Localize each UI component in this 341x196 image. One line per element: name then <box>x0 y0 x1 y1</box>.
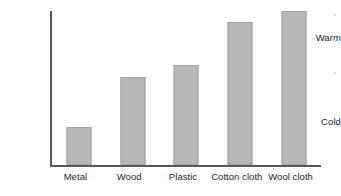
scan-speckle <box>334 14 336 16</box>
bar-wood <box>120 77 145 165</box>
x-axis-category-labels: MetalWoodPlasticCotton clothWool cloth <box>52 170 321 186</box>
bar-cotton-cloth <box>228 22 253 165</box>
bar-plastic <box>174 65 199 165</box>
bar-wool-cloth <box>282 11 307 165</box>
scan-speckle <box>334 40 336 42</box>
category-label-cotton-cloth: Cotton cloth <box>206 170 268 183</box>
plot-area <box>52 8 321 165</box>
category-label-metal: Metal <box>44 170 106 183</box>
scan-speckle <box>334 72 336 74</box>
category-label-wood: Wood <box>98 170 160 183</box>
bar-chart: Warm Cold MetalWoodPlasticCotton clothWo… <box>0 0 341 196</box>
x-axis-line <box>50 165 321 167</box>
bar-metal <box>66 127 91 165</box>
category-label-wool-cloth: Wool cloth <box>260 170 322 183</box>
category-label-plastic: Plastic <box>152 170 214 183</box>
